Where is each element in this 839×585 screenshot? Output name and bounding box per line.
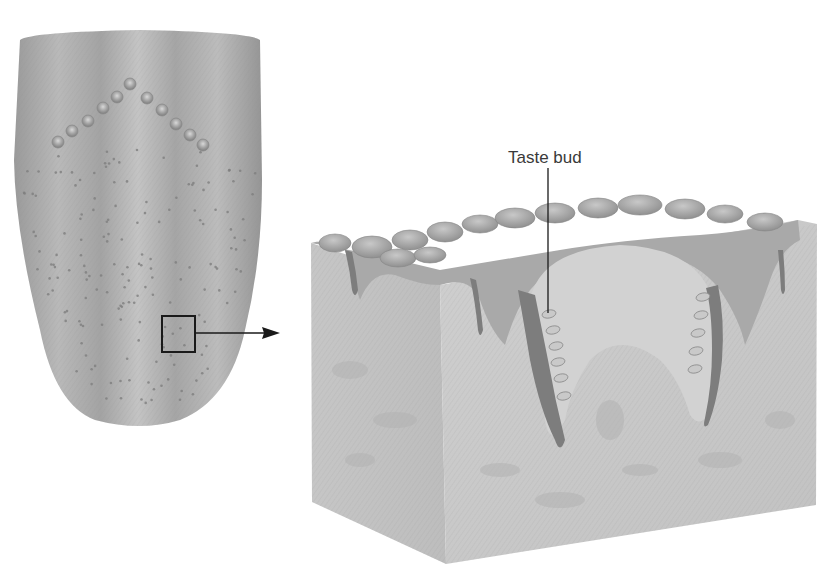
fungiform-dot: [80, 342, 83, 345]
fungiform-dot: [205, 345, 208, 348]
fungiform-dot: [126, 266, 129, 269]
papilla-bump: [665, 199, 705, 219]
fungiform-dot: [119, 305, 122, 308]
fungiform-dot: [52, 263, 55, 266]
fungiform-dot: [123, 286, 126, 289]
fungiform-dot: [136, 221, 139, 224]
papilla-bump: [392, 230, 428, 250]
fungiform-dot: [128, 279, 131, 282]
fungiform-dot: [54, 266, 57, 269]
fungiform-dot: [138, 263, 141, 266]
fungiform-dot: [105, 397, 108, 400]
fungiform-dot: [74, 184, 77, 187]
fungiform-dot: [78, 320, 81, 323]
fungiform-dot: [243, 239, 246, 242]
fungiform-dot: [36, 268, 39, 271]
fungiform-dot: [90, 383, 93, 386]
fungiform-dot: [136, 149, 139, 152]
fungiform-dot: [150, 267, 153, 270]
fungiform-dot: [207, 181, 210, 184]
fungiform-dot: [194, 209, 197, 212]
fungiform-dot: [239, 169, 242, 172]
fungiform-dot: [168, 209, 171, 212]
vallate-papilla-dot: [52, 136, 64, 148]
fungiform-dot: [63, 232, 66, 235]
fungiform-dot: [106, 240, 109, 243]
fungiform-dot: [188, 266, 191, 269]
fungiform-dot: [228, 169, 231, 172]
fungiform-dot: [57, 155, 60, 158]
papilla-bump: [747, 213, 783, 231]
fungiform-dot: [195, 379, 198, 382]
fungiform-dot: [203, 320, 206, 323]
fungiform-dot: [147, 381, 150, 384]
fungiform-dot: [108, 162, 111, 165]
papilla-bump: [578, 198, 618, 218]
fungiform-dot: [120, 318, 123, 321]
fungiform-dot: [79, 179, 82, 182]
fungiform-dot: [175, 261, 178, 264]
taste-bud-label-text: Taste bud: [508, 148, 582, 167]
tongue-illustration: [0, 0, 290, 426]
fungiform-dot: [230, 247, 233, 250]
fungiform-dot: [170, 354, 173, 357]
fungiform-dot: [38, 250, 41, 253]
fungiform-dot: [128, 301, 131, 304]
fungiform-dot: [117, 307, 120, 310]
papilla-bump: [380, 249, 416, 267]
fungiform-dot: [113, 158, 116, 161]
fungiform-dot: [88, 275, 91, 278]
fungiform-dot: [106, 291, 109, 294]
fungiform-dot: [180, 278, 183, 281]
fungiform-dot: [234, 290, 237, 293]
fungiform-dot: [137, 339, 140, 342]
fungiform-dot: [155, 361, 158, 364]
fungiform-dot: [96, 288, 99, 291]
fungiform-dot: [35, 195, 38, 198]
fungiform-dot: [203, 288, 206, 291]
fungiform-dot: [50, 263, 53, 266]
fungiform-dot: [235, 248, 238, 251]
fungiform-dot: [151, 276, 154, 279]
fungiform-dot: [144, 402, 147, 405]
fungiform-dot: [149, 258, 152, 261]
fungiform-dot: [105, 165, 108, 168]
fungiform-dot: [23, 192, 26, 195]
fungiform-dot: [141, 253, 144, 256]
fungiform-dot: [93, 197, 96, 200]
fungiform-dot: [90, 368, 93, 371]
fungiform-dot: [145, 201, 148, 204]
fungiform-dot: [55, 254, 58, 257]
fungiform-dot: [172, 333, 175, 336]
fungiform-dot: [83, 265, 86, 268]
fungiform-dot: [254, 172, 257, 175]
fungiform-dot: [150, 399, 153, 402]
papilla-bump: [707, 205, 743, 223]
fungiform-dot: [51, 289, 54, 292]
fungiform-dot: [71, 171, 74, 174]
fungiform-dot: [85, 297, 88, 300]
fungiform-dot: [85, 271, 88, 274]
fungiform-dot: [47, 293, 50, 296]
papilla-bump: [618, 195, 662, 215]
fungiform-dot: [75, 370, 78, 373]
fungiform-dot: [233, 237, 236, 240]
tongue-root-fade: [0, 0, 290, 70]
fungiform-dot: [192, 393, 195, 396]
fungiform-dot: [120, 397, 123, 400]
fungiform-dot: [106, 221, 109, 224]
fungiform-dot: [93, 172, 96, 175]
papilla-bump: [319, 234, 351, 252]
fungiform-dot: [32, 231, 35, 234]
fungiform-dot: [118, 161, 121, 164]
fungiform-dot: [133, 301, 136, 304]
vallate-papilla-dot: [141, 92, 153, 104]
fungiform-dot: [103, 235, 106, 238]
fungiform-dot: [122, 302, 125, 305]
fungiform-dot: [121, 273, 124, 276]
fungiform-dot: [94, 365, 97, 368]
fungiform-dot: [169, 301, 172, 304]
fungiform-dot: [121, 238, 124, 241]
fungiform-dot: [173, 364, 176, 367]
fungiform-dot: [191, 184, 194, 187]
